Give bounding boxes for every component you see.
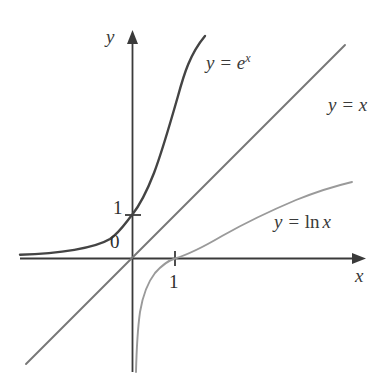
exponential-label-exponent: x <box>245 51 250 65</box>
x-axis <box>20 251 366 266</box>
exponential-curve <box>20 36 205 255</box>
x-axis-label: x <box>355 266 363 285</box>
graph-canvas <box>0 0 384 377</box>
y-axis-arrowhead <box>127 30 138 44</box>
logarithm-label-argument: x <box>323 211 331 232</box>
origin-label: 0 <box>110 232 120 251</box>
logarithm-label-function: ln <box>305 211 320 232</box>
exponential-curve-label: y = ex <box>206 52 251 72</box>
logarithm-label-base: y = <box>274 211 305 232</box>
exponential-label-base: y = e <box>206 52 245 73</box>
y-axis-tick-label-1: 1 <box>113 198 123 217</box>
identity-line-curve <box>26 45 345 364</box>
logarithm-curve-label: y = lnx <box>274 212 331 231</box>
x-axis-tick-label-1: 1 <box>169 272 179 291</box>
function-graph-figure: y x 1 1 0 y = ex y = x y = lnx <box>0 0 384 377</box>
x-axis-arrowhead <box>352 253 366 264</box>
y-axis-label: y <box>106 27 114 46</box>
identity-line-label: y = x <box>328 95 367 114</box>
